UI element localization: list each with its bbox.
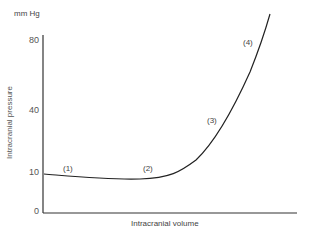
- chart-plot: [0, 0, 312, 240]
- pressure-volume-curve: [44, 14, 270, 179]
- annotation-1: (1): [63, 164, 73, 173]
- annotation-3: (3): [207, 116, 217, 125]
- annotation-2: (2): [143, 164, 153, 173]
- annotation-4: (4): [243, 38, 253, 47]
